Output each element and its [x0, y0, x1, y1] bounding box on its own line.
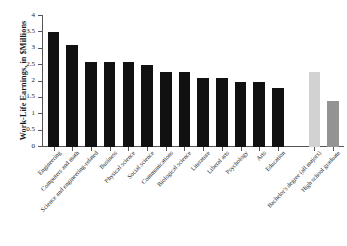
bar	[123, 62, 135, 147]
category-label: Arts	[255, 149, 268, 162]
category-label: Biological science	[156, 149, 193, 188]
y-axis-tick-label: 3	[32, 42, 36, 52]
bar	[327, 101, 339, 147]
bar	[253, 82, 265, 148]
bar	[160, 72, 172, 147]
bar	[309, 72, 321, 147]
bar	[272, 88, 284, 147]
y-axis-tick-label: 3.5	[26, 26, 35, 36]
y-axis-tick-label: 2	[32, 75, 36, 85]
y-axis-tick-label: 2.5	[26, 59, 35, 69]
bar	[48, 32, 60, 147]
bar	[104, 62, 116, 147]
bar	[216, 78, 228, 147]
y-axis-tick-label: 0	[32, 141, 36, 151]
bars-layer	[42, 16, 344, 147]
y-axis-tick-label: 1.5	[26, 91, 35, 101]
bar	[235, 82, 247, 148]
plot-area: 00.511.522.533.54	[42, 16, 344, 147]
bar	[197, 78, 209, 147]
bar	[141, 65, 153, 147]
bar-chart: Work-Life Earnings, in $Millions 00.511.…	[0, 0, 347, 246]
category-labels: EngineeringComputers and mathScience and…	[42, 149, 347, 246]
bar	[85, 62, 97, 147]
y-axis-tick-label: 0.5	[26, 124, 35, 134]
y-axis-tick-label: 4	[32, 10, 36, 20]
bar	[179, 72, 191, 147]
y-axis-tick-label: 1	[32, 108, 36, 118]
bar	[66, 45, 78, 147]
